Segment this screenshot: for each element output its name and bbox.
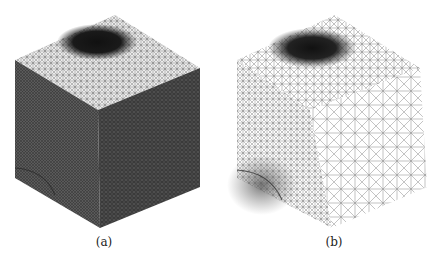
panel-a: (a) xyxy=(0,0,222,264)
caption-a: (a) xyxy=(84,235,124,249)
panel-b: (b) xyxy=(222,0,444,264)
mesh-cube-b xyxy=(222,0,444,264)
caption-b: (b) xyxy=(314,235,354,249)
mesh-cube-a xyxy=(0,0,222,264)
